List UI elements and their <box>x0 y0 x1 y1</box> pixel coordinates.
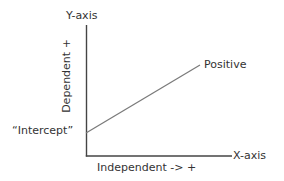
intercept-annotation: “Intercept” <box>12 124 73 137</box>
x-axis-label: X-axis <box>233 149 266 162</box>
dependent-axis-label-text: Dependent + <box>59 39 72 113</box>
y-axis-label: Y-axis <box>66 9 97 22</box>
trend-line-positive <box>86 65 200 133</box>
scatter-axes-diagram: Y-axis Dependent + “Intercept” Positive … <box>0 0 284 181</box>
dependent-axis-label: Dependent + <box>59 28 72 124</box>
independent-axis-label: Independent -> + <box>97 161 196 174</box>
positive-annotation: Positive <box>204 58 246 71</box>
